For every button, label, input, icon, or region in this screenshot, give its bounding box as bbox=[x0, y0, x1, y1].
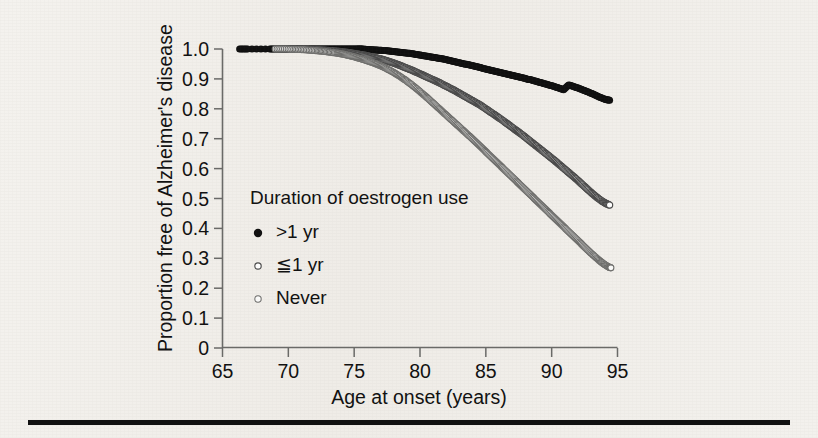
bottom-divider-rule bbox=[28, 420, 790, 425]
x-tick-label: 70 bbox=[277, 360, 299, 382]
y-tick-label: 0 bbox=[198, 337, 209, 359]
series-2 bbox=[277, 46, 612, 208]
x-tick-label: 85 bbox=[475, 360, 497, 382]
x-axis: 65707580859095 bbox=[212, 348, 629, 383]
y-tick-label: 0.3 bbox=[182, 247, 209, 269]
legend-marker-filled-circle-marker bbox=[254, 229, 262, 237]
x-tick-label: 95 bbox=[607, 360, 629, 382]
x-axis-ticks bbox=[223, 348, 618, 357]
figure-panel: 00.10.20.30.40.50.60.70.80.91.0 65707580… bbox=[0, 0, 818, 438]
chart-legend: Duration of oestrogen use >1 yr≦1 yrNeve… bbox=[250, 187, 469, 308]
x-axis-title: Age at onset (years) bbox=[331, 386, 507, 408]
y-tick-label: 0.4 bbox=[182, 217, 209, 239]
data-point bbox=[606, 97, 613, 104]
legend-label-1: ≦1 yr bbox=[276, 254, 324, 275]
series-3 bbox=[272, 46, 614, 271]
data-point bbox=[608, 265, 614, 271]
chart-canvas: 00.10.20.30.40.50.60.70.80.91.0 65707580… bbox=[0, 0, 818, 438]
y-tick-label: 0.6 bbox=[182, 158, 209, 180]
data-point bbox=[607, 202, 613, 208]
y-tick-label: 0.9 bbox=[182, 68, 209, 90]
y-tick-label: 0.5 bbox=[182, 188, 209, 210]
x-tick-label: 90 bbox=[541, 360, 563, 382]
y-axis: 00.10.20.30.40.50.60.70.80.91.0 bbox=[182, 38, 223, 359]
x-axis-tick-labels: 65707580859095 bbox=[212, 360, 629, 382]
legend-items: >1 yr≦1 yrNever bbox=[254, 221, 328, 308]
y-axis-tick-labels: 00.10.20.30.40.50.60.70.80.91.0 bbox=[182, 38, 209, 359]
y-axis-ticks bbox=[214, 49, 223, 348]
legend-marker-open-circle-marker bbox=[255, 263, 261, 269]
x-tick-label: 75 bbox=[343, 360, 365, 382]
x-tick-label: 80 bbox=[409, 360, 431, 382]
y-tick-label: 0.8 bbox=[182, 98, 209, 120]
y-tick-label: 0.1 bbox=[182, 307, 209, 329]
y-tick-label: 1.0 bbox=[182, 38, 209, 60]
x-tick-label: 65 bbox=[212, 360, 234, 382]
legend-label-0: >1 yr bbox=[276, 221, 319, 242]
y-tick-label: 0.2 bbox=[182, 277, 209, 299]
legend-marker-open-circle-small-marker bbox=[255, 296, 261, 302]
legend-label-2: Never bbox=[276, 287, 327, 308]
legend-title: Duration of oestrogen use bbox=[250, 187, 469, 208]
y-axis-title: Proportion free of Alzheimer's disease bbox=[154, 24, 176, 352]
y-tick-label: 0.7 bbox=[182, 128, 209, 150]
